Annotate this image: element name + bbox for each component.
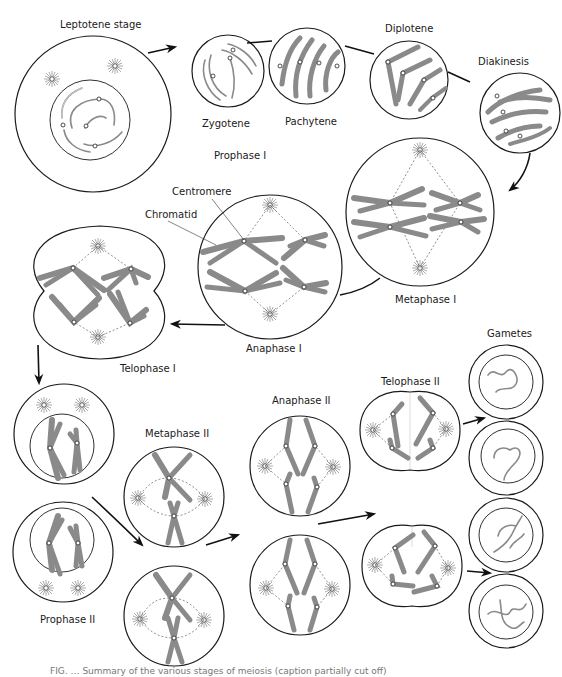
- prophase-ii-top-cell: [14, 384, 114, 484]
- label-anaphase-ii: Anaphase II: [272, 395, 331, 406]
- gamete-4: [469, 574, 543, 648]
- centrosome-icon: [36, 397, 52, 413]
- label-prophase-ii: Prophase II: [40, 614, 95, 625]
- cell-membrane: [250, 535, 350, 635]
- cell-membrane: [124, 566, 224, 666]
- metaphase-ii-top-cell: Metaphase II: [124, 428, 224, 547]
- metaphase-ii-bottom-cell: [124, 566, 224, 666]
- label-pachytene: Pachytene: [285, 116, 337, 127]
- label-prophase-i: Prophase I: [214, 150, 266, 161]
- label-leptotene: Leptotene stage: [60, 19, 141, 30]
- pachytene-stage: Pachytene: [269, 28, 345, 127]
- connector-line: [247, 41, 272, 43]
- diplotene-stage: Diplotene: [370, 23, 448, 119]
- arrow-icon: [172, 324, 225, 325]
- label-telophase-i: Telophase I: [119, 363, 176, 374]
- arrow-icon: [463, 418, 484, 424]
- centrosome-icon: [44, 71, 60, 87]
- figure-caption: FIG. … Summary of the various stages of …: [50, 666, 387, 676]
- anaphase-ii-bottom-cell: [250, 535, 350, 635]
- label-diplotene: Diplotene: [385, 23, 433, 34]
- metaphase-i-stage: Metaphase I: [346, 138, 494, 305]
- cell-membrane: [14, 384, 114, 484]
- label-chromatid: Chromatid: [145, 209, 197, 220]
- anaphase-ii-top-cell: Anaphase II: [250, 395, 350, 516]
- connector-line: [345, 46, 374, 54]
- label-anaphase-i: Anaphase I: [246, 343, 302, 354]
- cell-membrane: [15, 36, 171, 192]
- arrow-icon: [318, 514, 374, 524]
- centrosome-icon: [70, 580, 86, 596]
- arrow-icon: [510, 153, 530, 190]
- label-diakinesis: Diakinesis: [478, 56, 529, 67]
- connector-line: [448, 72, 470, 82]
- label-metaphase-i: Metaphase I: [395, 294, 456, 305]
- gamete-3: [469, 498, 543, 572]
- meiosis-diagram: Leptotene stage Zygotene Pachytene: [0, 0, 562, 677]
- gamete-1: [469, 345, 543, 419]
- telophase-ii-top-cell: Telophase II: [360, 376, 460, 471]
- label-zygotene: Zygotene: [202, 118, 250, 129]
- arrow-icon: [38, 345, 39, 383]
- leptotene-stage: Leptotene stage: [15, 19, 171, 192]
- arrow-icon: [148, 47, 175, 53]
- connector-line: [340, 278, 380, 295]
- arrow-icon: [467, 571, 490, 573]
- zygotene-stage: Zygotene: [192, 35, 264, 129]
- arrow-icon: [206, 535, 238, 545]
- label-metaphase-ii: Metaphase II: [145, 428, 209, 439]
- centrosome-icon: [107, 58, 123, 74]
- label-centromere: Centromere: [172, 186, 231, 197]
- telophase-ii-bottom-cell: [362, 525, 462, 606]
- prophase-ii-bottom-cell: Prophase II: [13, 502, 113, 625]
- cell-membrane: [13, 502, 113, 602]
- centrosome-icon: [38, 580, 54, 596]
- centrosome-icon: [74, 397, 90, 413]
- anaphase-i-stage: Anaphase I: [198, 195, 342, 354]
- label-telophase-ii: Telophase II: [380, 376, 440, 387]
- gamete-2: [469, 421, 543, 495]
- label-gametes: Gametes: [487, 328, 532, 339]
- telophase-i-stage: Telophase I: [34, 226, 176, 374]
- diakinesis-stage: Diakinesis: [478, 56, 560, 153]
